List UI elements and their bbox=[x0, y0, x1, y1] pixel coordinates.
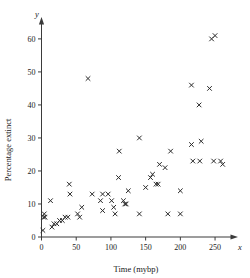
data-point bbox=[191, 159, 196, 164]
data-points bbox=[41, 33, 225, 232]
data-point bbox=[163, 165, 168, 170]
x-tick-label-150: 150 bbox=[140, 243, 152, 252]
x-axis-variable-label: x bbox=[237, 242, 242, 252]
data-point bbox=[213, 33, 218, 38]
data-point bbox=[106, 192, 111, 197]
y-tick-label-10: 10 bbox=[28, 200, 36, 209]
data-point bbox=[137, 136, 142, 141]
data-point bbox=[166, 212, 171, 217]
y-tick-label-40: 40 bbox=[28, 101, 36, 110]
x-axis bbox=[42, 234, 239, 239]
x-tick-label-200: 200 bbox=[174, 243, 186, 252]
x-tick-labels: 050100150200250 bbox=[40, 243, 222, 252]
data-point bbox=[143, 185, 148, 190]
x-tick-label-100: 100 bbox=[105, 243, 117, 252]
data-point bbox=[189, 142, 194, 147]
data-point bbox=[90, 192, 95, 197]
data-point bbox=[126, 188, 131, 193]
y-tick-labels: 0102030405060 bbox=[28, 35, 36, 242]
y-tick-marks bbox=[38, 39, 42, 237]
data-point bbox=[66, 215, 71, 220]
data-point bbox=[109, 198, 114, 203]
data-point bbox=[199, 139, 204, 144]
data-point bbox=[157, 162, 162, 167]
data-point bbox=[197, 103, 202, 108]
data-point bbox=[100, 192, 105, 197]
data-point bbox=[117, 149, 122, 154]
plot-area: 0102030405060 050100150200250 Time (mybp… bbox=[0, 0, 250, 278]
data-point bbox=[113, 212, 118, 217]
y-axis-arrowhead bbox=[39, 17, 44, 25]
data-point bbox=[207, 86, 212, 91]
scatter-chart: 0102030405060 050100150200250 Time (mybp… bbox=[0, 0, 250, 278]
data-point bbox=[116, 175, 121, 180]
y-tick-label-30: 30 bbox=[28, 134, 36, 143]
data-point bbox=[197, 159, 202, 164]
data-point bbox=[79, 205, 84, 210]
data-point bbox=[86, 76, 91, 81]
data-point bbox=[178, 212, 183, 217]
y-axis-variable-label: y bbox=[34, 9, 39, 19]
data-point bbox=[98, 198, 103, 203]
data-point bbox=[211, 159, 216, 164]
data-point bbox=[111, 205, 116, 210]
y-tick-label-60: 60 bbox=[28, 35, 36, 44]
y-axis-label: Percentage extinct bbox=[3, 118, 13, 181]
y-tick-label-50: 50 bbox=[28, 68, 36, 77]
y-tick-label-0: 0 bbox=[32, 233, 36, 242]
x-tick-label-50: 50 bbox=[72, 243, 80, 252]
x-tick-label-250: 250 bbox=[209, 243, 221, 252]
data-point bbox=[168, 149, 173, 154]
data-point bbox=[178, 188, 183, 193]
x-axis-arrowhead bbox=[231, 234, 239, 239]
data-point bbox=[68, 192, 73, 197]
data-point bbox=[67, 182, 72, 187]
x-axis-label: Time (mybp) bbox=[114, 264, 159, 274]
data-point bbox=[100, 208, 105, 213]
x-tick-label-0: 0 bbox=[40, 243, 44, 252]
y-tick-label-20: 20 bbox=[28, 167, 36, 176]
x-tick-marks bbox=[42, 237, 216, 241]
data-point bbox=[48, 198, 53, 203]
data-point bbox=[189, 83, 194, 88]
data-point bbox=[137, 212, 142, 217]
